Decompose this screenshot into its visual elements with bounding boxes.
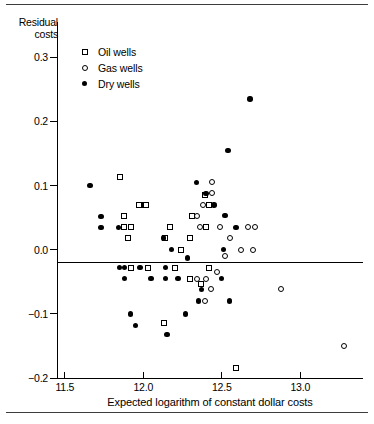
data-point-dry <box>199 287 204 292</box>
data-point-gas <box>214 269 220 275</box>
legend-label: Oil wells <box>98 44 136 60</box>
y-axis-title-line-2: costs <box>8 28 58 40</box>
data-point-dry <box>116 225 121 230</box>
data-point-dry <box>233 225 238 230</box>
data-point-oil <box>172 265 178 271</box>
y-axis-tick-label: 0.2 <box>6 116 48 127</box>
data-point-oil <box>128 224 134 230</box>
y-axis-tick <box>50 249 57 250</box>
data-point-oil <box>233 365 239 371</box>
data-point-gas <box>278 286 284 292</box>
zero-reference-line <box>57 262 363 263</box>
data-point-oil <box>145 265 151 271</box>
data-point-dry <box>98 225 103 230</box>
data-point-dry <box>169 247 174 252</box>
x-axis-tick-label: 12.0 <box>120 382 166 393</box>
y-axis-tick-label: −0.1 <box>6 309 48 320</box>
data-point-oil <box>136 202 142 208</box>
y-axis-title: Residual costs <box>8 16 58 40</box>
data-point-dry <box>87 183 92 188</box>
legend-marker-oil-icon <box>82 49 88 55</box>
y-axis-title-line-1: Residual <box>8 16 58 28</box>
data-point-gas <box>194 276 200 282</box>
legend: Oil wellsGas wellsDry wells <box>82 44 192 92</box>
x-axis-tick-label: 13.0 <box>277 382 323 393</box>
legend-label: Dry wells <box>98 76 140 92</box>
data-point-oil <box>117 174 123 180</box>
data-point-gas <box>197 224 203 230</box>
data-point-dry <box>175 276 180 281</box>
data-point-gas <box>200 202 206 208</box>
data-point-dry <box>164 332 169 337</box>
data-point-gas <box>208 286 214 292</box>
data-point-oil <box>128 265 134 271</box>
data-point-gas <box>222 253 228 259</box>
data-point-gas <box>252 224 258 230</box>
data-point-dry <box>221 247 226 252</box>
data-point-dry <box>137 265 142 270</box>
data-point-dry <box>122 265 127 270</box>
scatter-plot: Residual costs Expected logarithm of con… <box>0 0 374 424</box>
data-point-oil <box>187 235 193 241</box>
data-point-oil <box>143 202 149 208</box>
data-point-dry <box>247 96 252 101</box>
data-point-dry <box>122 276 127 281</box>
data-point-dry <box>163 265 168 270</box>
figure-panel: Residual costs Expected logarithm of con… <box>0 0 374 424</box>
y-axis-tick <box>50 57 57 58</box>
data-point-oil <box>206 265 212 271</box>
data-point-oil <box>187 276 193 282</box>
y-axis-tick <box>50 121 57 122</box>
data-point-gas <box>227 235 233 241</box>
x-axis-tick <box>300 372 301 379</box>
y-axis-tick-label: 0.0 <box>6 245 48 256</box>
data-point-oil <box>178 247 184 253</box>
data-point-gas <box>238 247 244 253</box>
data-point-dry <box>128 311 133 316</box>
x-axis-tick <box>64 372 65 379</box>
data-point-gas <box>203 276 209 282</box>
data-point-dry <box>183 311 188 316</box>
legend-label: Gas wells <box>98 60 143 76</box>
y-axis-line <box>57 22 58 378</box>
data-point-oil <box>167 224 173 230</box>
data-point-oil <box>121 224 127 230</box>
data-point-dry <box>163 276 168 281</box>
y-axis-tick <box>50 313 57 314</box>
data-point-dry <box>196 298 201 303</box>
data-point-gas <box>245 224 251 230</box>
data-point-dry <box>148 276 153 281</box>
legend-marker-dry-icon <box>82 81 87 86</box>
data-point-oil <box>125 235 131 241</box>
data-point-gas <box>202 298 208 304</box>
data-point-oil <box>121 213 127 219</box>
legend-item-dry: Dry wells <box>82 76 192 92</box>
data-point-gas <box>209 190 215 196</box>
y-axis-tick <box>50 185 57 186</box>
legend-item-gas: Gas wells <box>82 60 192 76</box>
data-point-gas <box>341 343 347 349</box>
x-axis-tick-label: 12.5 <box>199 382 245 393</box>
data-point-dry <box>219 276 224 281</box>
x-axis-line <box>57 378 363 379</box>
y-axis-tick-label: 0.1 <box>6 181 48 192</box>
data-point-dry <box>225 148 230 153</box>
data-point-dry <box>133 323 138 328</box>
data-point-oil <box>198 281 204 287</box>
x-axis-tick <box>221 372 222 379</box>
y-axis-tick <box>50 378 57 379</box>
data-point-oil <box>203 224 209 230</box>
data-point-gas <box>217 224 223 230</box>
data-point-gas <box>209 179 215 185</box>
y-axis-tick-label: 0.3 <box>6 52 48 63</box>
data-point-dry <box>194 180 199 185</box>
data-point-oil <box>161 320 167 326</box>
x-axis-title: Expected logarithm of constant dollar co… <box>57 396 363 408</box>
x-axis-tick-label: 11.5 <box>42 382 88 393</box>
data-point-dry <box>185 255 190 260</box>
data-point-dry <box>203 191 208 196</box>
legend-item-oil: Oil wells <box>82 44 192 60</box>
data-point-dry <box>98 214 103 219</box>
legend-marker-gas-icon <box>82 65 88 71</box>
data-point-gas <box>194 213 200 219</box>
